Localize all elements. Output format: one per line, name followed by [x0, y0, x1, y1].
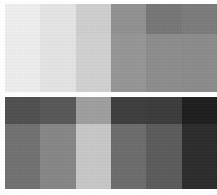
- upper-band-col-4: [111, 4, 146, 92]
- lower-band-col-5-upper-patch: [146, 97, 181, 124]
- lower-band-col-4-upper-patch: [111, 97, 146, 124]
- upper-band-col-3-upper-patch: [76, 4, 111, 34]
- upper-band-col-3: [76, 4, 111, 92]
- lower-band-col-4: [111, 97, 146, 189]
- lower-band-col-1-upper-patch: [5, 97, 40, 124]
- lower-band-col-3: [76, 97, 111, 189]
- lower-band-col-6-lower-patch: [182, 124, 217, 189]
- lower-band-col-3-upper-patch: [76, 97, 111, 124]
- lower-band-col-5: [146, 97, 181, 189]
- lower-band-col-2-upper-patch: [40, 97, 75, 124]
- upper-band-col-6-lower-patch: [182, 34, 217, 92]
- upper-band-col-6-upper-patch: [182, 4, 217, 34]
- upper-band: [5, 4, 217, 92]
- upper-band-col-4-upper-patch: [111, 4, 146, 34]
- image-canvas: [0, 0, 217, 195]
- upper-band-col-2: [40, 4, 75, 92]
- upper-band-col-1: [5, 4, 40, 92]
- lower-band-col-6: [182, 97, 217, 189]
- lower-band: [5, 97, 217, 189]
- lower-band-col-2: [40, 97, 75, 189]
- lower-band-col-3-lower-patch: [76, 124, 111, 189]
- upper-band-col-5: [146, 4, 181, 92]
- upper-band-col-4-lower-patch: [111, 34, 146, 92]
- upper-band-col-5-lower-patch: [146, 34, 181, 92]
- upper-band-col-2-upper-patch: [40, 4, 75, 34]
- upper-band-col-1-lower-patch: [5, 34, 40, 92]
- upper-band-col-5-upper-patch: [146, 4, 181, 34]
- lower-band-col-6-upper-patch: [182, 97, 217, 124]
- lower-band-col-1-lower-patch: [5, 124, 40, 189]
- upper-band-col-3-lower-patch: [76, 34, 111, 92]
- upper-band-col-1-upper-patch: [5, 4, 40, 34]
- upper-band-col-2-lower-patch: [40, 34, 75, 92]
- lower-band-col-1: [5, 97, 40, 189]
- lower-band-col-4-lower-patch: [111, 124, 146, 189]
- upper-band-col-6: [182, 4, 217, 92]
- lower-band-col-2-lower-patch: [40, 124, 75, 189]
- lower-band-col-5-lower-patch: [146, 124, 181, 189]
